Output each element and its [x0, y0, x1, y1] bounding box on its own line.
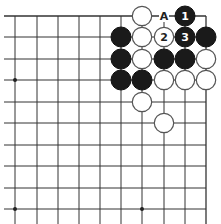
- white-stone: [175, 70, 194, 89]
- white-stone: [154, 70, 173, 89]
- markers: A: [159, 9, 169, 23]
- white-stone: [132, 6, 151, 25]
- grid-lines: [4, 16, 206, 224]
- white-stone: [132, 27, 151, 46]
- black-stone: [196, 27, 216, 47]
- move-number: 2: [160, 31, 168, 44]
- white-stone: [196, 70, 215, 89]
- go-board: 123 A: [0, 0, 221, 224]
- white-stone: 2: [154, 27, 173, 46]
- black-stone: 3: [175, 27, 195, 47]
- black-stone: 1: [175, 6, 195, 26]
- black-stone: [111, 49, 131, 69]
- black-stone: [111, 27, 131, 47]
- black-stone: [175, 49, 195, 69]
- black-stone: [111, 70, 131, 90]
- white-stone: [132, 49, 151, 68]
- move-number: 3: [181, 31, 189, 44]
- star-point: [140, 207, 144, 211]
- point-marker-label: A: [160, 10, 169, 23]
- black-stone: [132, 70, 152, 90]
- star-point: [13, 78, 17, 82]
- white-stone: [132, 92, 151, 111]
- black-stone: [154, 49, 174, 69]
- move-number: 1: [181, 10, 189, 23]
- white-stone: [154, 113, 173, 132]
- star-point: [13, 207, 17, 211]
- white-stone: [196, 49, 215, 68]
